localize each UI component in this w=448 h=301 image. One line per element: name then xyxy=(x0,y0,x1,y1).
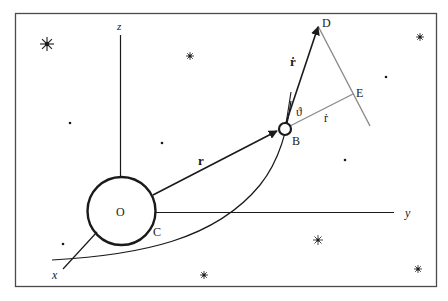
diagram-frame xyxy=(16,14,437,287)
star-icon xyxy=(313,235,323,245)
angle-theta-label: ϑ xyxy=(296,105,302,119)
position-vector-r xyxy=(153,131,277,195)
velocity-vector-rdot xyxy=(286,27,318,123)
orbit-trajectory xyxy=(52,101,291,260)
velocity-vector-label: ṙ xyxy=(290,54,296,69)
star-field xyxy=(40,33,424,279)
star-icon xyxy=(40,37,54,51)
star-icon xyxy=(69,122,72,125)
x-axis-label: x xyxy=(51,268,58,282)
star-icon xyxy=(344,159,347,162)
radial-speed-label: ṙ xyxy=(324,111,328,125)
particle-b-label: B xyxy=(292,134,300,148)
point-d-label: D xyxy=(322,16,331,30)
star-icon xyxy=(186,52,194,60)
star-icon xyxy=(385,76,388,79)
point-c-label: C xyxy=(153,225,161,239)
x-axis xyxy=(63,232,97,269)
position-vector-label: r xyxy=(198,153,204,168)
star-icon xyxy=(414,265,422,273)
y-axis-label: y xyxy=(404,206,411,220)
z-axis-label: z xyxy=(116,20,122,32)
star-icon xyxy=(62,243,65,246)
star-icon xyxy=(161,142,164,145)
orbital-diagram: z y x O C r ṙ ϑ ṙ B D E xyxy=(0,0,448,301)
star-icon xyxy=(416,33,424,41)
star-icon xyxy=(200,271,208,279)
origin-label: O xyxy=(116,205,125,219)
particle-b xyxy=(279,123,291,135)
point-e-label: E xyxy=(356,86,363,100)
